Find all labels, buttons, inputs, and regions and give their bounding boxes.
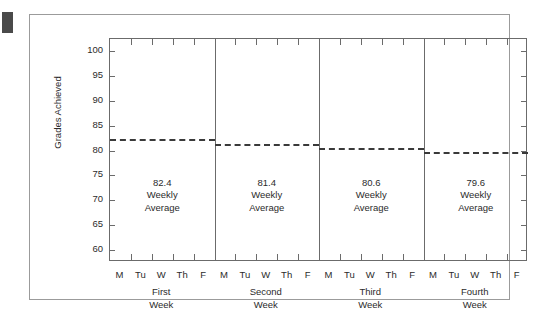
x-tick-mark	[340, 254, 341, 260]
y-tick-mark-right	[521, 250, 526, 251]
weekly-average-label-line1: Weekly	[215, 189, 320, 202]
week-caption: ThirdWeek	[318, 286, 423, 311]
x-tick-mark	[486, 254, 487, 260]
weekly-average-value: 79.6	[424, 177, 529, 190]
week-caption: FirstWeek	[109, 286, 214, 311]
week-caption-line1: Second	[214, 286, 319, 299]
x-tick-mark	[131, 254, 132, 260]
week-caption-line1: Third	[318, 286, 423, 299]
week-divider	[215, 39, 216, 260]
x-tick-mark	[173, 254, 174, 260]
x-tick-mark	[235, 39, 236, 45]
weekly-average-label-line1: Weekly	[424, 189, 529, 202]
plot-area: 82.4WeeklyAverage81.4WeeklyAverage80.6We…	[109, 38, 527, 261]
x-tick-mark	[465, 39, 466, 45]
weekly-average-label-line2: Average	[215, 202, 320, 215]
x-tick-mark	[403, 254, 404, 260]
week-caption-line2: Week	[423, 299, 528, 312]
y-tick-mark	[110, 126, 115, 127]
week-divider	[424, 39, 425, 260]
week-caption-line2: Week	[109, 299, 214, 312]
weekly-average-line	[319, 148, 424, 150]
x-tick-mark	[173, 39, 174, 45]
weekly-average-line	[215, 144, 320, 146]
y-axis-title: Grades Achieved	[52, 68, 63, 158]
weekly-average-value: 81.4	[215, 177, 320, 190]
x-tick-mark	[256, 39, 257, 45]
x-tick-mark	[131, 39, 132, 45]
y-tick-label: 85	[79, 120, 103, 130]
week-caption: FourthWeek	[423, 286, 528, 311]
weekly-average-label-line2: Average	[110, 202, 215, 215]
y-tick-label: 65	[79, 219, 103, 229]
figure-frame: Grades Achieved 82.4WeeklyAverage81.4Wee…	[29, 14, 510, 300]
week-caption-line1: First	[109, 286, 214, 299]
x-tick-mark	[340, 39, 341, 45]
weekly-average-line	[110, 139, 215, 141]
week-caption: SecondWeek	[214, 286, 319, 311]
y-tick-mark-right	[521, 151, 526, 152]
x-tick-mark	[298, 254, 299, 260]
y-tick-mark	[110, 76, 115, 77]
weekly-average-label-line1: Weekly	[110, 189, 215, 202]
x-tick-mark	[298, 39, 299, 45]
y-tick-mark-right	[521, 101, 526, 102]
x-tick-mark	[194, 39, 195, 45]
x-tick-mark	[507, 39, 508, 45]
x-tick-mark	[465, 254, 466, 260]
week-caption-line2: Week	[214, 299, 319, 312]
x-tick-mark	[277, 254, 278, 260]
y-tick-mark	[110, 225, 115, 226]
x-tick-mark	[444, 39, 445, 45]
weekly-average-label-line2: Average	[424, 202, 529, 215]
y-tick-mark-right	[521, 225, 526, 226]
x-tick-mark	[507, 254, 508, 260]
y-tick-label: 70	[79, 194, 103, 204]
weekly-average-annotation: 82.4WeeklyAverage	[110, 177, 215, 215]
y-tick-mark	[110, 101, 115, 102]
x-tick-mark	[277, 39, 278, 45]
y-tick-label: 95	[79, 70, 103, 80]
weekly-average-label-line1: Weekly	[319, 189, 424, 202]
week-caption-line1: Fourth	[423, 286, 528, 299]
x-tick-mark	[152, 39, 153, 45]
weekly-average-annotation: 81.4WeeklyAverage	[215, 177, 320, 215]
y-tick-mark-right	[521, 126, 526, 127]
y-tick-label: 75	[79, 169, 103, 179]
x-tick-mark	[382, 39, 383, 45]
day-label: F	[504, 270, 530, 280]
y-tick-label: 80	[79, 145, 103, 155]
x-tick-mark	[382, 254, 383, 260]
week-caption-line2: Week	[318, 299, 423, 312]
weekly-average-label-line2: Average	[319, 202, 424, 215]
y-tick-label: 100	[79, 45, 103, 55]
y-tick-label: 90	[79, 95, 103, 105]
x-tick-mark	[486, 39, 487, 45]
x-tick-mark	[361, 39, 362, 45]
x-tick-mark	[444, 254, 445, 260]
y-tick-mark	[110, 250, 115, 251]
x-tick-mark	[152, 254, 153, 260]
x-tick-mark	[403, 39, 404, 45]
y-tick-mark-right	[521, 51, 526, 52]
y-tick-mark	[110, 151, 115, 152]
weekly-average-value: 80.6	[319, 177, 424, 190]
weekly-average-line	[424, 152, 529, 154]
x-tick-mark	[194, 254, 195, 260]
weekly-average-annotation: 80.6WeeklyAverage	[319, 177, 424, 215]
weekly-average-annotation: 79.6WeeklyAverage	[424, 177, 529, 215]
x-tick-mark	[256, 254, 257, 260]
y-tick-label: 60	[79, 244, 103, 254]
y-tick-mark	[110, 51, 115, 52]
x-tick-mark	[361, 254, 362, 260]
x-tick-mark	[235, 254, 236, 260]
weekly-average-value: 82.4	[110, 177, 215, 190]
corner-mark-decoration	[2, 12, 13, 33]
y-tick-mark-right	[521, 76, 526, 77]
